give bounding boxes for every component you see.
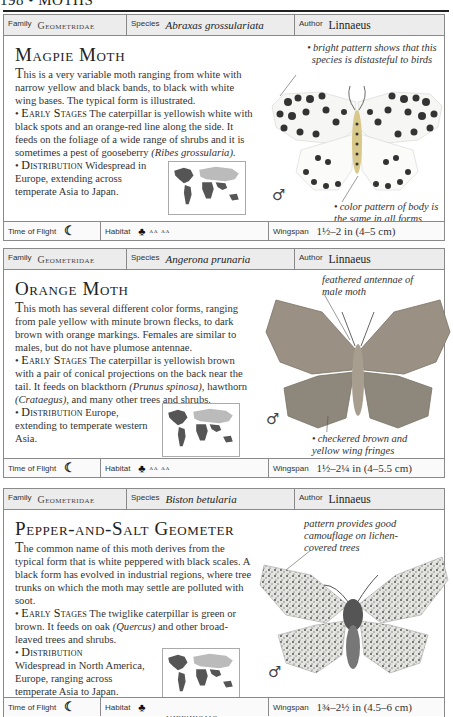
entry-magpie-moth: Family Geometridae Species Abraxas gross… — [3, 14, 445, 241]
entry-title: Orange Moth — [15, 278, 128, 300]
time-of-flight-label: Time of Flight — [8, 227, 56, 236]
classification-bar: Family Geometridae Species Angerona prun… — [4, 249, 444, 270]
tree-icon: ♣ — [138, 462, 145, 474]
shrub-icon: ʌʌ ʌʌ — [150, 464, 171, 472]
habitat-label: Habitat — [105, 703, 130, 712]
separator: • — [28, 0, 34, 8]
author-label: Author — [299, 253, 323, 262]
author-label: Author — [299, 19, 323, 28]
species-cell: Species Biston betularia — [127, 489, 295, 509]
orange-moth-illustration — [262, 292, 452, 432]
wingspan-label: Wingspan — [273, 464, 309, 473]
habitat-label: Habitat — [105, 227, 130, 236]
family-cell: Family Geometridae — [4, 15, 127, 35]
moon-icon: ☾ — [64, 460, 76, 476]
habitat-cell: Habitat ♣ — [101, 698, 269, 716]
entry-pepper-and-salt-geometer: Family Geometridae Species Biston betula… — [3, 488, 445, 717]
author-value: Linnaeus — [329, 253, 371, 265]
author-cell: Author Linnaeus — [295, 489, 444, 509]
family-value: Geometridae — [38, 20, 95, 31]
family-cell: Family Geometridae — [4, 249, 127, 269]
time-of-flight-cell: Time of Flight ☾ — [4, 459, 101, 477]
intro-paragraph: The common name of this moth derives fro… — [15, 541, 253, 607]
magpie-moth-illustration — [266, 72, 446, 207]
entry-title: Magpie Moth — [15, 44, 125, 66]
male-symbol-icon: ♂ — [268, 663, 281, 681]
world-map-icon — [163, 649, 239, 701]
moon-icon: ☾ — [64, 699, 76, 715]
early-stages-paragraph: • Early Stages The caterpillar is yellow… — [15, 354, 255, 406]
distribution-paragraph: • Distribution Europe, extending to temp… — [15, 406, 155, 445]
habitat-cell: Habitat ♣ ʌʌ ʌʌ — [101, 222, 269, 240]
page-header: 198 • MOTHS — [0, 0, 453, 10]
wingspan-value: 1½–2 in (4–5 cm) — [317, 225, 396, 237]
family-value: Geometridae — [38, 494, 95, 505]
section-title: MOTHS — [38, 0, 93, 8]
header-rule — [3, 10, 449, 12]
distribution-paragraph: • DistributionWidespread in North Americ… — [15, 646, 155, 698]
classification-bar: Family Geometridae Species Biston betula… — [4, 489, 444, 510]
classification-bar: Family Geometridae Species Abraxas gross… — [4, 15, 444, 36]
male-symbol-icon: ♂ — [272, 186, 285, 204]
distribution-map — [168, 161, 246, 215]
wingspan-label: Wingspan — [273, 227, 309, 236]
tree-icon: ♣ — [138, 701, 145, 713]
species-value: Biston betularia — [165, 493, 236, 505]
time-of-flight-cell: Time of Flight ☾ — [4, 222, 101, 240]
shrub-icon: ʌʌ ʌʌ — [150, 227, 171, 235]
time-of-flight-cell: Time of Flight ☾ — [4, 698, 101, 716]
family-label: Family — [8, 253, 32, 262]
distribution-map — [162, 403, 240, 457]
distribution-map — [162, 648, 240, 702]
facts-bar: Time of Flight ☾ Habitat ♣ ʌʌ ʌʌ Wingspa… — [4, 458, 444, 477]
species-label: Species — [131, 253, 159, 262]
wingspan-value: 1¾–2½ in (4.5–6 cm) — [317, 701, 412, 713]
wingspan-cell: Wingspan 1½–2¼ in (4–5.5 cm) — [269, 459, 444, 477]
facts-bar: Time of Flight ☾ Habitat ♣ Wingspan 1¾–2… — [4, 697, 444, 716]
time-of-flight-label: Time of Flight — [8, 464, 56, 473]
caption-top: bright pattern shows that this species i… — [299, 42, 445, 66]
author-value: Linnaeus — [329, 19, 371, 31]
species-label: Species — [131, 493, 159, 502]
entry-title: Pepper-and-Salt Geometer — [15, 518, 234, 540]
author-label: Author — [299, 493, 323, 502]
family-cell: Family Geometridae — [4, 489, 127, 509]
world-map-icon — [169, 162, 245, 214]
habitat-label: Habitat — [105, 464, 130, 473]
world-map-icon — [163, 404, 239, 456]
moon-icon: ☾ — [64, 223, 76, 239]
early-stages-paragraph: • Early Stages The caterpillar is yellow… — [15, 107, 255, 159]
entry-body: Pepper-and-Salt Geometer The common name… — [4, 510, 444, 703]
wingspan-label: Wingspan — [273, 703, 309, 712]
entry-body: Orange Moth This moth has several differ… — [4, 270, 444, 458]
intro-paragraph: This moth has several different color fo… — [15, 301, 255, 354]
distribution-paragraph: • Distribution Widespread in Europe, ext… — [15, 159, 155, 198]
wingspan-cell: Wingspan 1¾–2½ in (4.5–6 cm) — [269, 698, 444, 716]
wingspan-value: 1½–2¼ in (4–5.5 cm) — [317, 462, 412, 474]
tree-icon: ♣ — [138, 225, 145, 237]
family-label: Family — [8, 19, 32, 28]
family-value: Geometridae — [38, 254, 95, 265]
entry-body: Magpie Moth This is a very variable moth… — [4, 36, 444, 221]
time-of-flight-label: Time of Flight — [8, 703, 56, 712]
species-label: Species — [131, 19, 159, 28]
habitat-cell: Habitat ♣ ʌʌ ʌʌ — [101, 459, 269, 477]
entry-orange-moth: Family Geometridae Species Angerona prun… — [3, 248, 445, 478]
wingspan-cell: Wingspan 1½–2 in (4–5 cm) — [269, 222, 444, 240]
author-cell: Author Linnaeus — [295, 249, 444, 269]
early-stages-paragraph: • Early Stages The twiglike caterpillar … — [15, 607, 253, 646]
facts-bar: Time of Flight ☾ Habitat ♣ ʌʌ ʌʌ Wingspa… — [4, 221, 444, 240]
species-cell: Species Abraxas grossulariata — [127, 15, 295, 35]
male-symbol-icon: ♂ — [266, 410, 279, 428]
pepper-and-salt-moth-illustration — [256, 545, 451, 685]
species-value: Angerona prunaria — [165, 253, 250, 265]
species-cell: Species Angerona prunaria — [127, 249, 295, 269]
family-label: Family — [8, 493, 32, 502]
author-cell: Author Linnaeus — [295, 15, 444, 35]
caption-bottom: checkered brown and yellow wing fringes — [312, 433, 437, 457]
species-value: Abraxas grossulariata — [165, 19, 263, 31]
author-value: Linnaeus — [329, 493, 371, 505]
page-number: 198 — [0, 0, 24, 8]
intro-paragraph: This is a very variable moth ranging fro… — [15, 67, 255, 107]
